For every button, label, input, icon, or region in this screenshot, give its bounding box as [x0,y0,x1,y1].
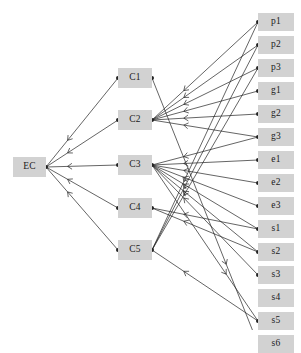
edge-s2-to-c3 [152,165,258,252]
outcome-node-s3: s3 [258,266,294,284]
edge-s2-to-c4 [152,208,258,252]
outcome-node-p2: p2 [258,36,294,54]
edge-e2-to-c3 [152,165,258,183]
outcome-node-e3: e3 [258,197,294,215]
middle-node-c5: C5 [118,240,152,260]
source-node-ec: EC [13,157,46,177]
outcome-node-e2: e2 [258,174,294,192]
edge-c4-to-ec [46,167,118,208]
middle-node-c4: C4 [118,198,152,218]
edge-g3-to-c2 [152,120,258,137]
outcome-node-g3: g3 [258,128,294,146]
outcome-node-e1: e1 [258,151,294,169]
edge-c3-to-s5 [152,165,258,321]
edge-c3-to-ec [46,165,118,167]
outcome-node-s2: s2 [258,243,294,261]
middle-node-c3: C3 [118,155,152,175]
middle-node-c1: C1 [118,68,152,88]
outcome-node-p1: p1 [258,13,294,31]
edge-e3-to-c3 [152,165,258,206]
edge-p1-to-c5 [152,22,258,250]
middle-node-c2: C2 [118,110,152,130]
edge-s5-to-c5 [152,250,258,321]
outcome-node-p3: p3 [258,59,294,77]
outcome-node-s5: s5 [258,312,294,330]
edge-c2-to-ec [46,120,118,167]
edge-p3-to-c5 [152,68,258,250]
outcome-node-s4: s4 [258,289,294,307]
outcome-node-s6: s6 [258,335,294,353]
outcome-node-s1: s1 [258,220,294,238]
edge-c5-to-ec [46,167,118,250]
outcome-node-g2: g2 [258,105,294,123]
edge-c1-to-ec [46,78,118,167]
outcome-node-g1: g1 [258,82,294,100]
